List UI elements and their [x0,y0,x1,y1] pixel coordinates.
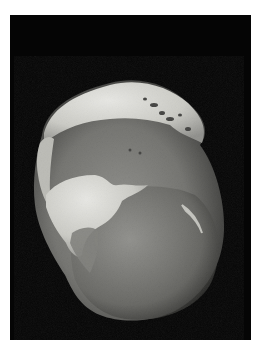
stone-texture [34,80,224,320]
stone-illustration [10,15,251,340]
photograph [10,15,251,340]
